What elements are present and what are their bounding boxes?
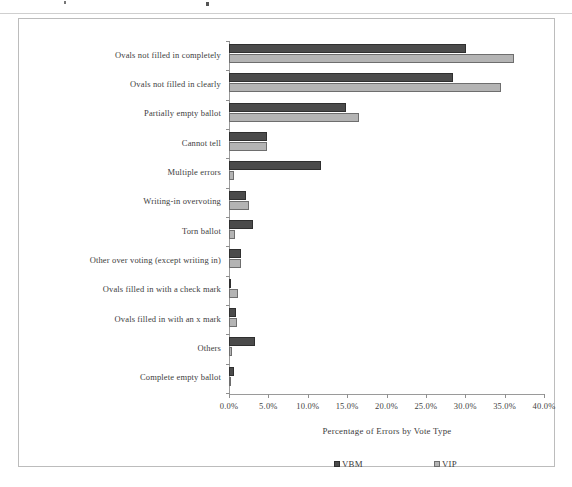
category-tick [226, 70, 230, 71]
category-label: Ovals filled in with a check mark [103, 284, 221, 294]
bar-vip [229, 54, 514, 63]
category-label: Other over voting (except writing in) [90, 255, 221, 265]
category-label: Complete empty ballot [140, 372, 221, 382]
value-tick [505, 394, 506, 398]
bar-vbm [229, 220, 253, 229]
bar-vbm [229, 249, 241, 258]
bar-group: Ovals filled in with an x mark [229, 305, 544, 334]
value-tick-label: 5.0% [259, 401, 278, 411]
chart-frame: Ovals not filled in completelyOvals not … [18, 18, 555, 467]
category-label: Cannot tell [182, 138, 221, 148]
category-label: Others [197, 343, 221, 353]
value-tick [347, 394, 348, 398]
category-tick [226, 100, 230, 101]
chart-legend: VBMVIP [229, 459, 545, 473]
category-tick [226, 276, 230, 277]
category-tick [226, 334, 230, 335]
x-axis-title: Percentage of Errors by Vote Type [229, 426, 545, 436]
bar-vbm [229, 161, 321, 170]
bar-vip [229, 377, 231, 386]
scan-speck-secondary [64, 1, 66, 4]
bar-vip [229, 230, 235, 239]
bar-vbm [229, 103, 346, 112]
category-tick [226, 188, 230, 189]
value-tick-label: 25.0% [414, 401, 437, 411]
value-tick-label: 40.0% [533, 401, 556, 411]
bar-group: Cannot tell [229, 129, 544, 158]
bar-group: Ovals not filled in completely [229, 41, 544, 70]
bar-group: Ovals not filled in clearly [229, 70, 544, 99]
bar-vip [229, 289, 238, 298]
bar-vip [229, 171, 234, 180]
category-tick [226, 158, 230, 159]
category-label: Ovals not filled in completely [115, 50, 221, 60]
category-label: Ovals not filled in clearly [130, 79, 221, 89]
bar-vbm [229, 132, 267, 141]
value-tick [544, 394, 545, 398]
bar-vip [229, 83, 501, 92]
category-label: Ovals filled in with an x mark [115, 314, 221, 324]
value-tick [465, 394, 466, 398]
bar-vbm [229, 44, 466, 53]
bar-group: Partially empty ballot [229, 100, 544, 129]
bar-vbm [229, 191, 246, 200]
bar-vip [229, 113, 359, 122]
value-tick [308, 394, 309, 398]
value-tick [229, 394, 230, 398]
category-label: Multiple errors [168, 167, 221, 177]
category-label: Partially empty ballot [144, 108, 221, 118]
bar-vbm [229, 279, 231, 288]
bar-group: Complete empty ballot [229, 364, 544, 393]
value-tick-label: 0.0% [220, 401, 239, 411]
value-tick-label: 35.0% [493, 401, 516, 411]
bar-vbm [229, 367, 234, 376]
bar-vbm [229, 73, 453, 82]
legend-item-vip: VIP [434, 459, 457, 469]
bar-group: Writing-in overvoting [229, 188, 544, 217]
chart-page: Ovals not filled in completelyOvals not … [0, 0, 572, 487]
category-tick [226, 41, 230, 42]
legend-swatch-icon [434, 461, 440, 467]
legend-label: VIP [442, 459, 457, 469]
bar-vip [229, 259, 241, 268]
bar-group: Other over voting (except writing in) [229, 246, 544, 275]
value-tick [387, 394, 388, 398]
legend-item-vbm: VBM [334, 459, 363, 469]
scan-speck [206, 2, 209, 6]
category-tick [226, 129, 230, 130]
bar-vip [229, 347, 232, 356]
bar-vbm [229, 337, 255, 346]
bar-vip [229, 318, 237, 327]
category-label: Torn ballot [182, 226, 221, 236]
value-tick-label: 15.0% [336, 401, 359, 411]
bar-vip [229, 142, 267, 151]
bar-vip [229, 201, 249, 210]
page-top-edge-line [0, 13, 572, 14]
category-label: Writing-in overvoting [143, 196, 221, 206]
category-tick [226, 364, 230, 365]
category-tick [226, 217, 230, 218]
bar-group: Torn ballot [229, 217, 544, 246]
value-tick [426, 394, 427, 398]
plot-area: Ovals not filled in completelyOvals not … [229, 41, 544, 393]
bar-vbm [229, 308, 236, 317]
legend-label: VBM [342, 459, 363, 469]
bar-group: Multiple errors [229, 158, 544, 187]
value-tick-label: 20.0% [375, 401, 398, 411]
legend-swatch-icon [334, 461, 340, 467]
value-tick [268, 394, 269, 398]
value-tick-label: 30.0% [454, 401, 477, 411]
category-tick [226, 246, 230, 247]
category-tick [226, 305, 230, 306]
bar-group: Ovals filled in with a check mark [229, 276, 544, 305]
value-tick-label: 10.0% [296, 401, 319, 411]
bar-group: Others [229, 334, 544, 363]
